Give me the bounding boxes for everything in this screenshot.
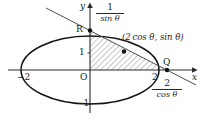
y-intercept-denominator: sin θ xyxy=(96,14,124,23)
y-intercept-numerator: 1 xyxy=(96,3,124,12)
figure-canvas: y x O −2 2 1 −1 R Q (2 cos θ, sin θ) 1 s… xyxy=(0,0,207,120)
x-axis-label: x xyxy=(192,73,197,82)
point-tangency-marker xyxy=(122,49,126,53)
point-Q-label: Q xyxy=(163,58,170,67)
point-Q-marker xyxy=(165,68,169,72)
x-intercept-denominator: cos θ xyxy=(152,90,182,99)
y-tick-label-negative-one: −1 xyxy=(76,99,89,108)
tangency-point-coordinates-label: (2 cos θ, sin θ) xyxy=(122,33,184,42)
point-R-marker xyxy=(88,28,92,32)
y-axis-label: y xyxy=(80,2,85,11)
x-intercept-numerator: 2 xyxy=(152,79,182,88)
x-tick-label-negative-two: −2 xyxy=(17,73,30,82)
origin-label: O xyxy=(80,73,87,82)
y-intercept-value: 1 sin θ xyxy=(96,3,124,23)
point-R-label: R xyxy=(76,25,83,34)
x-intercept-value: 2 cos θ xyxy=(152,79,182,99)
y-tick-label-one: 1 xyxy=(79,48,85,57)
